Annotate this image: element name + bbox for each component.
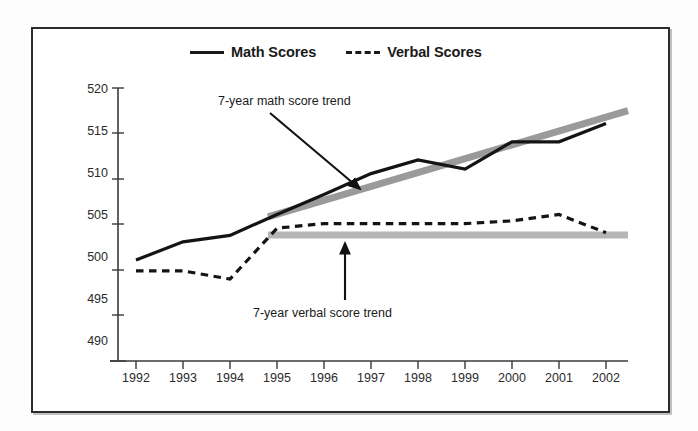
series-line-math	[136, 124, 606, 260]
chart-figure: Math Scores Verbal Scores 520 515 510 50…	[0, 0, 698, 431]
series-line-verbal	[136, 215, 606, 280]
x-axis-ticks	[136, 361, 606, 369]
annotation-arrow-math	[270, 113, 360, 189]
chart-plot-area	[0, 0, 698, 431]
trend-line-math	[268, 111, 628, 217]
